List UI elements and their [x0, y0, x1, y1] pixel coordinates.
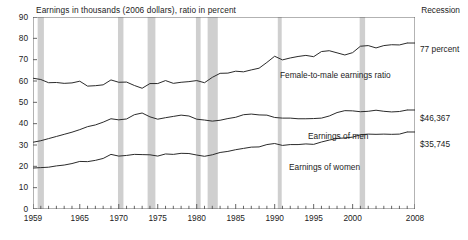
recession-legend-label: Recession	[421, 5, 460, 15]
y-axis-tick-label: 60	[4, 77, 28, 85]
series-label-women: Earnings of women	[289, 162, 360, 172]
x-axis-tick-label: 1985	[216, 214, 256, 222]
y-axis-tick-label: 80	[4, 34, 28, 42]
recession-band	[208, 17, 218, 209]
recession-band	[118, 17, 123, 209]
x-axis-tick-label: 2008	[395, 214, 435, 222]
x-axis-tick-label: 1980	[177, 214, 217, 222]
x-axis-tick-label: 1970	[99, 214, 139, 222]
series-line-ratio	[33, 43, 407, 88]
y-axis-tick-label: 70	[4, 55, 28, 63]
right-label-women: $35,745	[420, 139, 450, 149]
x-axis-tick-label: 1965	[60, 214, 100, 222]
y-axis-tick-label: 50	[4, 98, 28, 106]
x-axis-tick-label: 1975	[138, 214, 178, 222]
chart-root: Earnings in thousands (2006 dollars), ra…	[0, 0, 468, 240]
y-axis-tick-label: 90	[4, 13, 28, 21]
x-axis-tick-label: 1959	[13, 214, 53, 222]
y-axis-tick-label: 0	[4, 205, 28, 213]
series-label-men: Earnings of men	[308, 131, 368, 141]
y-axis-tick-label: 20	[4, 162, 28, 170]
x-axis-tick-label: 2000	[333, 214, 373, 222]
right-label-men: $46,367	[420, 113, 450, 123]
chart-subtitle: Earnings in thousands (2006 dollars), ra…	[36, 5, 236, 15]
plot-area	[33, 17, 415, 209]
recession-band	[278, 17, 282, 209]
recession-band	[196, 17, 201, 209]
x-axis-tick-label: 1990	[255, 214, 295, 222]
series-label-ratio: Female-to-male earnings ratio	[280, 70, 391, 80]
y-axis-tick-label: 30	[4, 141, 28, 149]
recession-band	[38, 17, 44, 209]
chart-svg	[33, 17, 415, 209]
x-axis-tick-label: 1995	[294, 214, 334, 222]
recession-band	[148, 17, 156, 209]
y-axis-tick-label: 10	[4, 183, 28, 191]
right-label-ratio: 77 percent	[420, 44, 459, 54]
y-axis-tick-label: 40	[4, 119, 28, 127]
